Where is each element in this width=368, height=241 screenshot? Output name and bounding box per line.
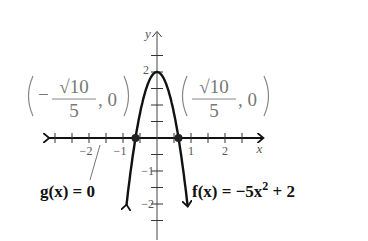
f-equation-label: f(x) = −5x2 + 2 [192, 179, 295, 201]
right-zero-label: √105, 0 [183, 76, 269, 121]
y-tick-label: −1 [141, 164, 154, 178]
comma-zero: , 0 [238, 89, 257, 110]
x-tick-label: −2 [80, 144, 93, 158]
x-axis-label: x [255, 141, 262, 156]
fraction-denominator: 5 [69, 100, 79, 121]
fraction-denominator: 5 [209, 100, 219, 121]
comma-zero: , 0 [98, 89, 117, 110]
parabola-chart: −2−1122−1−2 xy−√105, 0√105, 0g(x) = 0f(x… [0, 0, 368, 241]
right-paren [264, 76, 269, 116]
y-tick-label: 2 [143, 63, 149, 77]
minus-sign: − [38, 84, 49, 105]
fraction-numerator: √10 [199, 76, 228, 97]
right-paren [124, 76, 129, 116]
y-axis-label: y [143, 26, 151, 41]
left-paren [183, 76, 188, 116]
left-paren [29, 76, 34, 116]
left-zero-label: −√105, 0 [29, 76, 129, 121]
right-zero-point [174, 134, 182, 142]
left-zero-point [132, 134, 140, 142]
x-tick-label: 1 [188, 144, 194, 158]
x-tick-label: −1 [114, 144, 127, 158]
y-tick-label: −2 [141, 197, 154, 211]
g-equation-label: g(x) = 0 [40, 182, 95, 201]
x-tick-label: 2 [222, 144, 228, 158]
fraction-numerator: √10 [59, 76, 88, 97]
